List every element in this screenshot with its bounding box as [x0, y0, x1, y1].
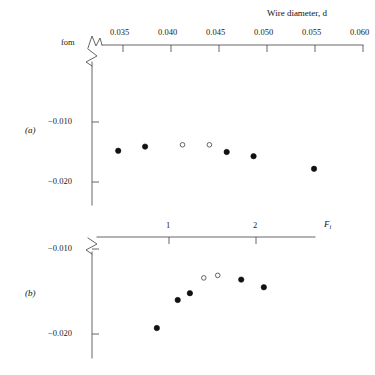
y-tick-label-a-0: −0.010: [48, 117, 72, 126]
x-tick-label-a-4: 0.055: [302, 28, 321, 37]
data-point-filled: [154, 325, 159, 330]
figure-container: Wire diameter, d fom 0.035 0.040 0.045 0…: [0, 0, 375, 375]
x-tick-label-a-3: 0.050: [254, 28, 273, 37]
x-tick-label-a-5: 0.060: [350, 28, 369, 37]
top-axis-title: Wire diameter, d: [267, 9, 327, 18]
x-tick-label-a-2: 0.045: [206, 28, 225, 37]
ticks-layer: [92, 45, 363, 334]
x-tick-label-a-1: 0.040: [158, 28, 177, 37]
x-tick-label-b-0: 1: [166, 221, 170, 230]
panel-b-x-axis-title: Fi: [324, 220, 331, 230]
axes-layer: [86, 36, 363, 358]
panel-b-axis-sub: i: [330, 223, 332, 230]
scatter-plot-svg: [0, 0, 375, 375]
y-tick-label-b-1: −0.020: [48, 329, 72, 338]
y-axis-label-fom: fom: [61, 38, 75, 47]
data-point-filled: [251, 154, 256, 159]
data-point-filled: [224, 149, 229, 154]
panel-a-data-points: [116, 143, 317, 172]
panel-b-y-axis-break: [86, 238, 97, 254]
data-point-filled: [142, 144, 147, 149]
top-axis-title-text: Wire diameter, d: [267, 8, 327, 18]
data-point-open: [180, 143, 185, 148]
panel-a-x-axis-break: [88, 36, 102, 48]
panel-b-label: (b): [25, 289, 36, 298]
data-point-filled: [239, 277, 244, 282]
data-point-filled: [311, 166, 316, 171]
y-tick-label-a-1: −0.020: [48, 177, 72, 186]
panel-a-y-axis-break: [86, 49, 97, 66]
data-point-open: [215, 273, 220, 278]
x-tick-label-b-1: 2: [253, 221, 257, 230]
data-point-filled: [261, 285, 266, 290]
data-point-filled: [175, 297, 180, 302]
data-point-filled: [116, 148, 121, 153]
data-point-filled: [187, 291, 192, 296]
data-point-open: [202, 276, 207, 281]
panel-a-label: (a): [25, 126, 36, 135]
panel-b-data-points: [154, 273, 266, 331]
x-tick-label-a-0: 0.035: [110, 28, 129, 37]
y-tick-label-b-0: −0.010: [48, 244, 72, 253]
data-point-open: [207, 143, 212, 148]
